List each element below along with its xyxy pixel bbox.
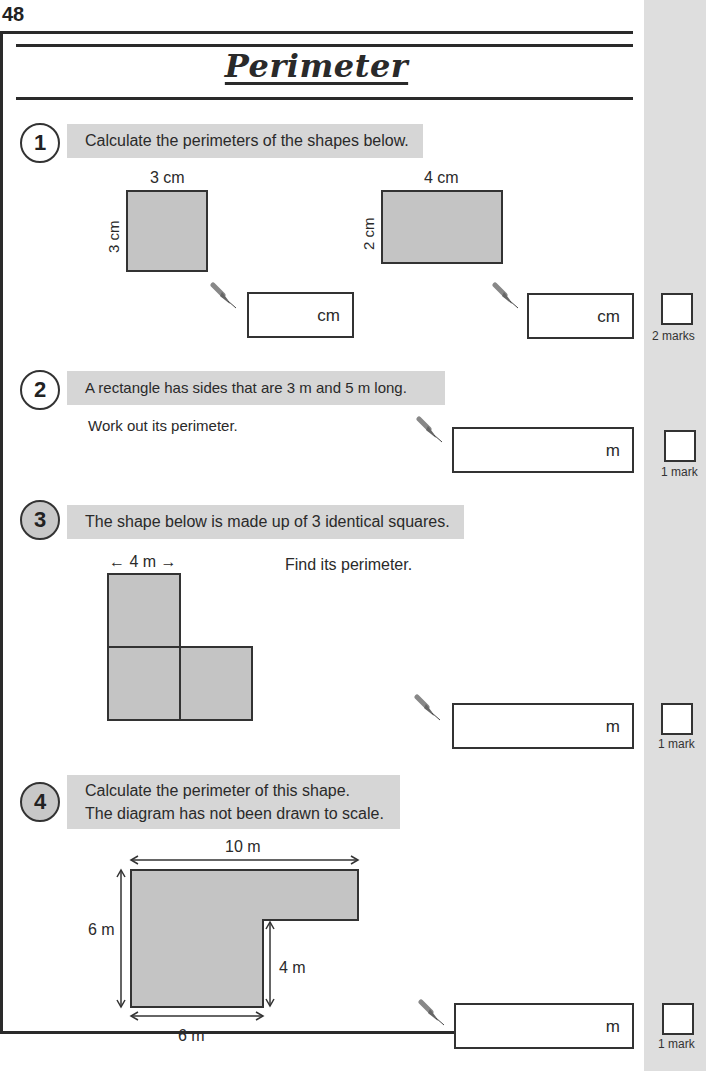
q4-marks-label: 1 mark bbox=[658, 1037, 695, 1051]
q4-l-shape-diagram bbox=[0, 0, 706, 1071]
q4-mark-box[interactable] bbox=[662, 1003, 694, 1035]
pen-icon bbox=[418, 999, 446, 1027]
q4-answer-box[interactable]: m bbox=[454, 1003, 634, 1049]
answer-unit: m bbox=[606, 1017, 620, 1037]
